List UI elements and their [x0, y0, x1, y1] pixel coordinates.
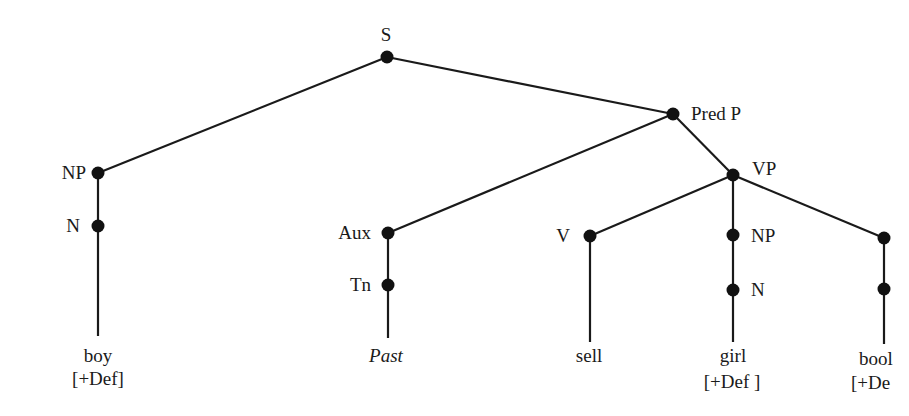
node-dot-s: [381, 51, 394, 64]
leaf-word-sell: sell: [576, 345, 602, 367]
tree-edges: [98, 57, 884, 344]
edge-vp-v: [590, 175, 733, 236]
node-label-pred-p: Pred P: [691, 103, 741, 125]
edge-s-predp: [387, 57, 673, 114]
leaf-feature-book: [+De: [851, 372, 890, 394]
leaf-word-book: bool: [859, 348, 893, 370]
node-dot-np-object: [727, 229, 740, 242]
node-label-np-object: NP: [751, 225, 775, 247]
node-dot-pred-p: [667, 108, 680, 121]
node-label-vp: VP: [752, 158, 776, 180]
node-dot-v: [584, 230, 597, 243]
leaf-feature-boy: [+Def]: [72, 368, 124, 390]
node-dot-n-subject: [92, 220, 105, 233]
node-label-n-object: N: [751, 279, 765, 301]
node-label-aux: Aux: [338, 222, 371, 244]
edge-predp-aux: [388, 114, 673, 233]
leaf-word-past: Past: [369, 345, 403, 367]
node-dot-vp: [727, 169, 740, 182]
node-dot-right: [878, 232, 891, 245]
leaf-feature-girl: [+Def ]: [704, 371, 761, 393]
node-label-tn: Tn: [350, 274, 371, 296]
leaf-word-boy: boy: [84, 345, 113, 367]
node-dot-right2: [878, 283, 891, 296]
node-label-n-subject: N: [66, 215, 80, 237]
node-dot-n-object: [727, 284, 740, 297]
node-dot-tn: [382, 279, 395, 292]
edge-s-np: [98, 57, 387, 173]
node-label-np-subject: NP: [62, 162, 86, 184]
node-label-s: S: [381, 24, 392, 46]
node-label-v: V: [556, 225, 570, 247]
leaf-word-girl: girl: [720, 345, 746, 367]
node-dot-aux: [382, 227, 395, 240]
syntax-tree: [0, 0, 909, 416]
node-dot-np-subject: [92, 167, 105, 180]
